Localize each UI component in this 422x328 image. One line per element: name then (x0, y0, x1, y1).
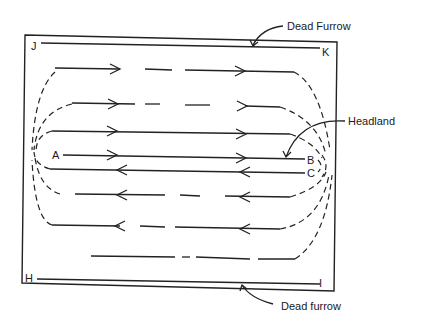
furrow-row-7 (91, 175, 332, 259)
label-dead-furrow-top: Dead Furrow (287, 20, 351, 32)
furrow-row-c: C (34, 152, 315, 179)
furrow-row-1 (32, 64, 330, 150)
furrow-row-a-b: A B (52, 149, 314, 166)
label-headland: Headland (348, 115, 395, 127)
corner-label-h: H (25, 272, 33, 284)
point-label-a: A (52, 149, 60, 161)
label-dead-furrow-bottom: Dead furrow (281, 300, 341, 312)
headland-callout: Headland (283, 115, 395, 157)
pointer-arrow (242, 285, 273, 304)
dead-furrow-top-line (41, 43, 320, 48)
corner-label-k: K (322, 46, 330, 58)
field-boundary (22, 35, 337, 291)
point-label-c: C (307, 167, 315, 179)
plowing-diagram: J K H I A B (0, 0, 422, 328)
headland-turn (318, 160, 321, 172)
corner-label-j: J (31, 40, 37, 52)
dead-furrow-bottom-line (37, 279, 320, 284)
corner-label-i: I (319, 277, 322, 289)
furrow-row-5 (35, 158, 326, 202)
furrow-row-2 (34, 99, 326, 155)
furrow-row-3 (36, 126, 322, 158)
point-label-b: B (307, 154, 314, 166)
arrow-right-icon (107, 150, 117, 160)
arrow-right-icon (107, 126, 117, 136)
